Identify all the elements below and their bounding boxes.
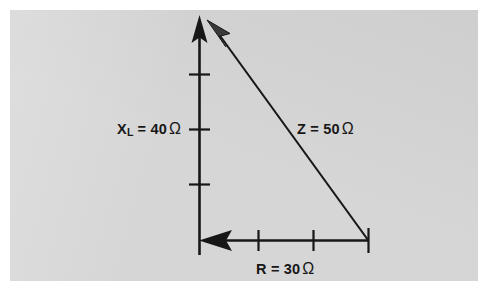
resistance-symbol: R: [256, 261, 267, 277]
ohm-symbol: Ω: [300, 260, 314, 277]
resistance-label: R = 30Ω: [256, 261, 315, 277]
resistance-equals: =: [267, 261, 284, 277]
impedance-equals: =: [306, 121, 323, 137]
vertical-axis-group: [189, 15, 210, 255]
ohm-symbol: Ω: [167, 120, 181, 137]
impedance-vector-arrowhead: [207, 20, 230, 47]
reactance-value: 40: [150, 121, 167, 137]
reactance-equals: =: [133, 121, 150, 137]
reactance-label: XL = 40Ω: [117, 121, 181, 138]
impedance-label: Z = 50Ω: [297, 121, 354, 137]
phasor-diagram-svg: [0, 0, 491, 291]
impedance-symbol: Z: [297, 121, 306, 137]
reactance-symbol: X: [117, 121, 127, 137]
impedance-triangle-figure: XL = 40Ω Z = 50Ω R = 30Ω: [0, 0, 491, 291]
resistance-value: 30: [284, 261, 301, 277]
horizontal-axis-group: [199, 228, 369, 253]
ohm-symbol: Ω: [340, 120, 354, 137]
impedance-value: 50: [323, 121, 340, 137]
